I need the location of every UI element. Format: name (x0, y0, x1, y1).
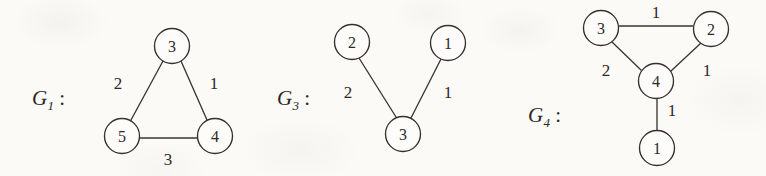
g3-edge-1-3 (411, 59, 441, 118)
graph-label-base: G (32, 86, 47, 110)
g1-node-5-label: 5 (118, 128, 126, 145)
weighted-graphs-figure: 2133542121312113241 G1: G3: G4: (0, 0, 766, 176)
graph-label-subscript: 4 (543, 115, 550, 130)
graph-label-colon: : (555, 103, 561, 127)
graph-label-subscript: 3 (292, 98, 299, 113)
g1-node-4-label: 4 (211, 128, 219, 145)
g4-node-1-label: 1 (653, 140, 661, 157)
g4-edge-3-4-weight: 2 (602, 61, 611, 80)
g3-edge-2-3-weight: 2 (344, 83, 353, 102)
graph-g3: 21213 (335, 25, 466, 152)
graph-g4: 12113241 (584, 3, 729, 166)
g4-node-3-label: 3 (597, 20, 605, 37)
g4-node-4-label: 4 (652, 73, 660, 90)
g4-node-2-label: 2 (707, 21, 715, 38)
g4-edge-2-4 (671, 43, 701, 71)
graph-label-colon: : (59, 86, 65, 110)
g4-edge-2-4-weight: 1 (703, 61, 712, 80)
g1-node-3-label: 3 (168, 38, 176, 55)
g3-node-1-label: 1 (444, 35, 452, 52)
graph-label-base: G (277, 86, 292, 110)
graph-drawing-canvas: 2133542121312113241 (0, 0, 766, 176)
graph-label-colon: : (304, 86, 310, 110)
graph-label-subscript: 1 (47, 98, 54, 113)
graph-label-g4: G4: (528, 103, 561, 131)
g3-edge-2-3 (359, 58, 396, 117)
g1-edge-3-5 (131, 61, 163, 120)
g1-edge-3-4-weight: 1 (210, 74, 219, 93)
graph-label-g3: G3: (277, 86, 310, 114)
g1-edge-5-4-weight: 3 (164, 150, 173, 169)
g3-node-2-label: 2 (348, 34, 356, 51)
graph-g1: 213354 (105, 29, 233, 169)
g3-node-3-label: 3 (399, 126, 407, 143)
graph-label-base: G (528, 103, 543, 127)
g4-edge-4-1-weight: 1 (668, 101, 677, 120)
g4-edge-3-2-weight: 1 (652, 3, 661, 22)
graph-label-g1: G1: (32, 86, 65, 114)
g3-edge-1-3-weight: 1 (444, 83, 453, 102)
g1-edge-3-4 (181, 61, 207, 120)
g4-edge-3-4 (612, 42, 641, 70)
g1-edge-3-5-weight: 2 (114, 74, 123, 93)
